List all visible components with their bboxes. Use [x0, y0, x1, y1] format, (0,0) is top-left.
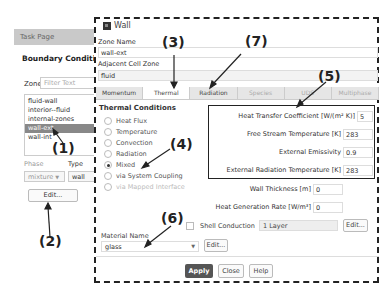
annotation-5: (5) [318, 68, 341, 84]
annotation-4: (4) [170, 136, 193, 152]
annotation-6: (6) [161, 210, 184, 226]
annotation-3: (3) [162, 34, 185, 50]
annotation-1: (1) [52, 140, 75, 156]
annotation-2: (2) [39, 233, 62, 249]
annotation-7: (7) [245, 33, 268, 49]
